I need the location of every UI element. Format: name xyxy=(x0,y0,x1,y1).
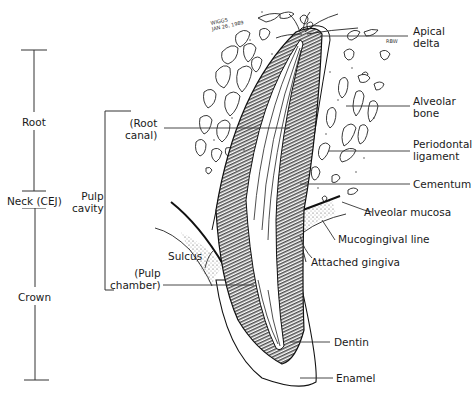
label-alveolar-mucosa: Alveolar mucosa xyxy=(364,206,451,218)
pulp-chamber-line2: chamber) xyxy=(110,279,161,291)
label-mucogingival-line: Mucogingival line xyxy=(338,233,430,245)
periodontal-ligament-line2: ligament xyxy=(413,150,472,162)
periodontal-ligament-line1: Periodontal xyxy=(413,138,472,150)
pulp-chamber-line1: (Pulp xyxy=(110,267,161,279)
label-root: Root xyxy=(22,115,46,129)
alveolar-bone-line2: bone xyxy=(413,107,456,119)
left-scale xyxy=(21,50,49,380)
label-alveolar-bone: Alveolar bone xyxy=(413,95,456,119)
label-periodontal-ligament: Periodontal ligament xyxy=(413,138,472,162)
label-crown: Crown xyxy=(18,290,51,304)
gingiva-left xyxy=(155,202,224,286)
label-sulcus: Sulcus xyxy=(168,250,202,262)
pulp-cavity-line1: Pulp xyxy=(72,190,104,202)
initials: RBW xyxy=(386,38,398,44)
root-canal-line2: canal) xyxy=(125,129,157,141)
pulp-cavity-line2: cavity xyxy=(72,202,104,214)
label-enamel: Enamel xyxy=(336,372,375,384)
alveolar-bone-line1: Alveolar xyxy=(413,95,456,107)
label-pulp-cavity: Pulp cavity xyxy=(72,190,104,214)
label-dentin: Dentin xyxy=(334,336,369,348)
label-cementum: Cementum xyxy=(413,178,471,190)
apical-delta-line2: delta xyxy=(413,37,445,49)
root-canal-line1: (Root xyxy=(125,117,157,129)
label-attached-gingiva: Attached gingiva xyxy=(311,256,400,268)
apical-delta-line1: Apical xyxy=(413,25,445,37)
label-root-canal: (Root canal) xyxy=(125,117,157,141)
label-neck-cej: Neck (CEJ) xyxy=(7,194,62,208)
label-apical-delta: Apical delta xyxy=(413,25,445,49)
label-pulp-chamber: (Pulp chamber) xyxy=(110,267,161,291)
